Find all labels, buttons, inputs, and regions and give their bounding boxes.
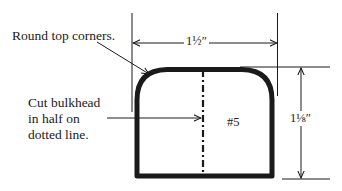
cut-note-line-3: dotted line.	[28, 127, 89, 142]
height-dimension-label: 1⅛″	[288, 111, 313, 126]
part-number-label: #5	[227, 115, 240, 130]
bulkhead-outline	[137, 70, 272, 177]
width-dimension-label: 1½″	[184, 34, 209, 49]
round-corners-leader	[97, 42, 149, 74]
cut-note-line-1: Cut bulkhead	[28, 95, 100, 110]
round-corners-note: Round top corners.	[12, 28, 115, 43]
cut-note-line-2: in half on	[28, 111, 80, 126]
